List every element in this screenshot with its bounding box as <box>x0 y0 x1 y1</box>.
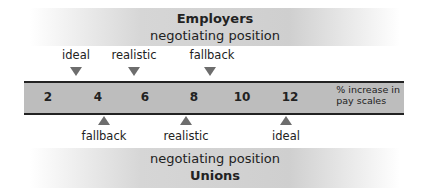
unions-footer: negotiating position Unions <box>30 148 400 188</box>
tick-4: 4 <box>94 90 102 104</box>
employer-realistic-label: realistic <box>111 48 156 62</box>
employers-title: Employers <box>30 10 400 27</box>
tick-6: 6 <box>141 90 149 104</box>
employer-ideal-label: ideal <box>62 48 90 62</box>
unions-subtitle: negotiating position <box>30 150 400 167</box>
employer-ideal-marker-icon <box>70 67 82 76</box>
unit-line-1: % increase in <box>336 84 400 95</box>
union-fallback-marker-icon <box>98 116 110 125</box>
union-ideal-label: ideal <box>272 129 300 143</box>
unit-line-2: pay scales <box>336 95 400 106</box>
tick-12: 12 <box>282 90 299 104</box>
employers-subtitle: negotiating position <box>30 27 400 44</box>
employer-fallback-label: fallback <box>190 48 235 62</box>
unions-title: Unions <box>30 167 400 184</box>
employers-header: Employers negotiating position <box>30 8 400 46</box>
union-realistic-marker-icon <box>180 116 192 125</box>
tick-2: 2 <box>44 90 52 104</box>
union-fallback-label: fallback <box>82 129 127 143</box>
employer-fallback-marker-icon <box>204 67 216 76</box>
axis-unit-label: % increase in pay scales <box>336 84 400 106</box>
union-ideal-marker-icon <box>280 116 292 125</box>
union-realistic-label: realistic <box>163 129 208 143</box>
pay-scale-axis: 2 4 6 8 10 12 % increase in pay scales <box>24 81 404 115</box>
tick-8: 8 <box>190 90 198 104</box>
tick-10: 10 <box>234 90 251 104</box>
employer-realistic-marker-icon <box>128 67 140 76</box>
